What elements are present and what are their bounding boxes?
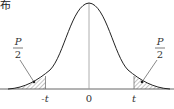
tick-label-zero: 0 bbox=[86, 93, 92, 104]
right-p-numerator: P bbox=[156, 36, 164, 47]
right-arrow bbox=[142, 60, 157, 82]
left-arrow-head bbox=[33, 81, 36, 84]
tick-label-t: t bbox=[132, 93, 137, 104]
left-p-numerator: P bbox=[14, 36, 22, 47]
left-area-label: P 2 bbox=[13, 36, 23, 60]
left-p-denominator: 2 bbox=[15, 49, 21, 60]
t-distribution-diagram: P 2 P 2 -t 0 t bbox=[0, 0, 174, 109]
left-tail-area bbox=[10, 76, 46, 89]
right-p-denominator: 2 bbox=[157, 49, 163, 60]
left-arrow bbox=[20, 60, 34, 82]
tick-label-neg-t: -t bbox=[41, 93, 49, 104]
right-arrow-head bbox=[141, 81, 144, 84]
right-area-label: P 2 bbox=[155, 36, 165, 60]
